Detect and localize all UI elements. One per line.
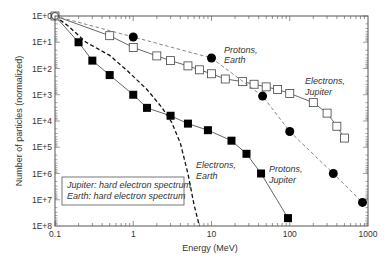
- data-point: [221, 75, 229, 83]
- x-tick-label: 0.1: [49, 229, 61, 239]
- chart: 1E+01E+11E+21E+31E+41E+51E+61E+71E+8 0.1…: [0, 0, 390, 265]
- series-line: [55, 16, 344, 138]
- data-point: [129, 91, 137, 99]
- y-tick-label: 1E+0: [32, 11, 52, 21]
- data-point: [329, 169, 338, 178]
- x-tick-label: 10: [207, 229, 217, 239]
- annotation-text: Jupiter: [304, 87, 333, 97]
- data-point: [309, 99, 317, 107]
- data-point: [129, 44, 137, 52]
- data-point: [208, 70, 216, 78]
- data-point: [262, 83, 270, 91]
- x-tick-label: 1000: [359, 229, 378, 239]
- y-tick-label: 1E+7: [32, 195, 52, 205]
- data-point: [242, 150, 250, 158]
- data-point: [333, 122, 341, 130]
- data-point: [184, 62, 192, 70]
- x-tick-labels: 0.11101001000: [49, 229, 378, 239]
- data-point: [285, 127, 294, 136]
- legend-line-jupiter: Jupiter: hard electron spectrum: [66, 180, 192, 190]
- annotation-text: Electrons,: [196, 160, 236, 170]
- data-point: [227, 137, 235, 145]
- data-point: [286, 89, 294, 97]
- legend-box: Jupiter: hard electron spectrum Earth: h…: [62, 177, 192, 205]
- x-axis-title: Energy (MeV): [182, 243, 238, 253]
- annotation-text: Earth: [224, 55, 246, 65]
- annotation-electrons-earth: Electrons, Earth: [196, 160, 236, 181]
- y-tick-label: 1E+4: [32, 116, 52, 126]
- annotation-electrons-jupiter: Electrons, Jupiter: [304, 76, 345, 97]
- annotation-text: Jupiter: [268, 175, 297, 185]
- annotation-text: Earth: [196, 171, 218, 181]
- data-point: [207, 54, 216, 63]
- y-tick-label: 1E+2: [32, 64, 52, 74]
- y-axis-title: Number of particles (normalized): [14, 56, 24, 187]
- data-point: [129, 33, 138, 42]
- annotation-protons-earth: Protons, Earth: [224, 45, 258, 65]
- data-point: [284, 214, 292, 222]
- data-point: [257, 170, 265, 178]
- legend-line-earth: Earth: hard electron spectrum: [67, 191, 186, 201]
- data-point: [106, 71, 114, 79]
- data-point: [258, 92, 267, 101]
- data-point: [75, 38, 83, 46]
- data-point: [250, 80, 258, 88]
- annotation-text: Protons,: [224, 45, 258, 55]
- data-point: [204, 126, 212, 134]
- data-point: [274, 86, 282, 94]
- data-point: [195, 66, 203, 74]
- annotation-text: Protons,: [269, 164, 303, 174]
- y-tick-label: 1E+1: [32, 37, 52, 47]
- y-tick-label: 1E+3: [32, 90, 52, 100]
- y-tick-label: 1E+5: [32, 142, 52, 152]
- data-point: [167, 57, 175, 65]
- x-tick-label: 100: [283, 229, 297, 239]
- data-point: [323, 109, 331, 117]
- data-point: [340, 134, 348, 142]
- y-tick-label: 1E+6: [32, 169, 52, 179]
- data-point: [184, 120, 192, 128]
- data-point: [153, 52, 161, 60]
- data-point: [88, 57, 96, 65]
- y-tick-labels: 1E+01E+11E+21E+31E+41E+51E+61E+71E+8: [32, 11, 52, 231]
- data-point: [106, 32, 114, 40]
- data-point: [358, 198, 367, 207]
- annotation-protons-jupiter: Protons, Jupiter: [268, 164, 303, 185]
- data-point: [143, 104, 151, 112]
- x-tick-label: 1: [131, 229, 136, 239]
- annotation-text: Electrons,: [305, 76, 345, 86]
